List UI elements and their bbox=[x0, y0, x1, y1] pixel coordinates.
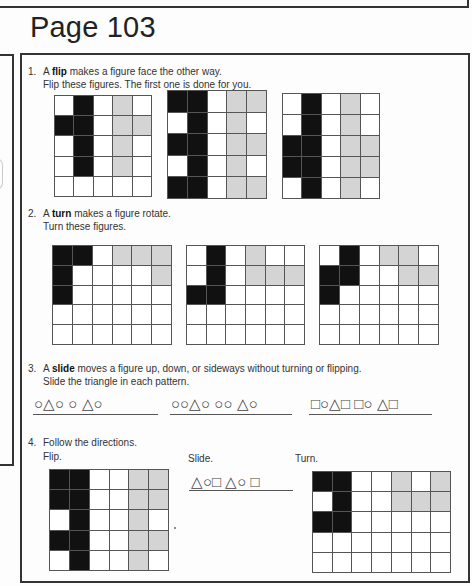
slide-pattern-1[interactable]: ○△○ ○ △○ bbox=[34, 395, 103, 413]
grid-cell[interactable] bbox=[187, 325, 206, 344]
turn-practice-grid[interactable] bbox=[312, 471, 451, 573]
grid-cell[interactable] bbox=[266, 266, 285, 285]
grid-cell[interactable] bbox=[412, 512, 431, 531]
grid-cell[interactable] bbox=[110, 490, 129, 509]
grid-cell[interactable] bbox=[320, 266, 339, 285]
grid-cell[interactable] bbox=[320, 325, 339, 344]
grid-cell[interactable] bbox=[55, 177, 73, 196]
grid-cell[interactable] bbox=[113, 136, 131, 155]
grid-cell[interactable] bbox=[227, 134, 246, 155]
grid-cell[interactable] bbox=[187, 266, 206, 285]
grid-cell[interactable] bbox=[188, 91, 207, 112]
grid-cell[interactable] bbox=[133, 177, 151, 196]
grid-cell[interactable] bbox=[285, 266, 304, 285]
grid-cell[interactable] bbox=[283, 115, 301, 135]
grid-cell[interactable] bbox=[74, 177, 92, 196]
grid-cell[interactable] bbox=[208, 156, 227, 177]
grid-cell[interactable] bbox=[302, 178, 320, 198]
grid-cell[interactable] bbox=[90, 490, 109, 509]
slide-pattern-3[interactable]: □○△□ □○ △□ bbox=[311, 395, 398, 413]
grid-cell[interactable] bbox=[372, 472, 391, 491]
grid-cell[interactable] bbox=[313, 533, 332, 552]
grid-cell[interactable] bbox=[226, 266, 245, 285]
grid-cell[interactable] bbox=[320, 305, 339, 324]
grid-cell[interactable] bbox=[53, 246, 72, 265]
grid-cell[interactable] bbox=[149, 531, 168, 550]
grid-cell[interactable] bbox=[360, 325, 379, 344]
grid-cell[interactable] bbox=[419, 266, 438, 285]
grid-cell[interactable] bbox=[208, 134, 227, 155]
grid-cell[interactable] bbox=[340, 305, 359, 324]
grid-cell[interactable] bbox=[360, 266, 379, 285]
grid-cell[interactable] bbox=[168, 177, 187, 198]
grid-cell[interactable] bbox=[227, 156, 246, 177]
grid-cell[interactable] bbox=[333, 512, 352, 531]
grid-cell[interactable] bbox=[227, 91, 246, 112]
grid-cell[interactable] bbox=[302, 136, 320, 156]
grid-cell[interactable] bbox=[110, 551, 129, 570]
grid-cell[interactable] bbox=[94, 177, 112, 196]
grid-cell[interactable] bbox=[50, 510, 69, 529]
grid-cell[interactable] bbox=[333, 492, 352, 511]
grid-cell[interactable] bbox=[283, 136, 301, 156]
grid-cell[interactable] bbox=[333, 533, 352, 552]
grid-cell[interactable] bbox=[419, 325, 438, 344]
grid-cell[interactable] bbox=[113, 177, 131, 196]
grid-cell[interactable] bbox=[55, 116, 73, 135]
grid-cell[interactable] bbox=[129, 510, 148, 529]
grid-cell[interactable] bbox=[110, 470, 129, 489]
grid-cell[interactable] bbox=[93, 266, 112, 285]
grid-cell[interactable] bbox=[392, 512, 411, 531]
grid-cell[interactable] bbox=[380, 305, 399, 324]
grid-cell[interactable] bbox=[226, 246, 245, 265]
grid-cell[interactable] bbox=[50, 470, 69, 489]
grid-cell[interactable] bbox=[302, 157, 320, 177]
grid-cell[interactable] bbox=[93, 325, 112, 344]
slide-pattern-2[interactable]: ○○△○ ○○ △○ bbox=[171, 395, 258, 413]
grid-cell[interactable] bbox=[113, 116, 131, 135]
grid-cell[interactable] bbox=[74, 136, 92, 155]
grid-cell[interactable] bbox=[285, 325, 304, 344]
grid-cell[interactable] bbox=[399, 286, 418, 305]
grid-cell[interactable] bbox=[93, 305, 112, 324]
grid-cell[interactable] bbox=[70, 490, 89, 509]
grid-cell[interactable] bbox=[152, 325, 171, 344]
grid-cell[interactable] bbox=[419, 305, 438, 324]
grid-cell[interactable] bbox=[226, 305, 245, 324]
grid-cell[interactable] bbox=[90, 510, 109, 529]
grid-cell[interactable] bbox=[340, 266, 359, 285]
grid-cell[interactable] bbox=[70, 510, 89, 529]
grid-cell[interactable] bbox=[266, 246, 285, 265]
grid-cell[interactable] bbox=[352, 492, 371, 511]
grid-cell[interactable] bbox=[149, 551, 168, 570]
grid-cell[interactable] bbox=[90, 531, 109, 550]
grid-cell[interactable] bbox=[187, 305, 206, 324]
grid-cell[interactable] bbox=[352, 553, 371, 572]
grid-cell[interactable] bbox=[360, 305, 379, 324]
grid-cell[interactable] bbox=[361, 115, 379, 135]
grid-cell[interactable] bbox=[227, 113, 246, 134]
grid-cell[interactable] bbox=[50, 490, 69, 509]
grid-cell[interactable] bbox=[73, 246, 92, 265]
grid-cell[interactable] bbox=[266, 286, 285, 305]
grid-cell[interactable] bbox=[133, 116, 151, 135]
grid-cell[interactable] bbox=[320, 246, 339, 265]
grid-cell[interactable] bbox=[113, 305, 132, 324]
grid-cell[interactable] bbox=[207, 325, 226, 344]
grid-cell[interactable] bbox=[110, 510, 129, 529]
grid-cell[interactable] bbox=[133, 136, 151, 155]
grid-cell[interactable] bbox=[341, 94, 359, 114]
grid-cell[interactable] bbox=[113, 157, 131, 176]
turn-grid-1[interactable] bbox=[52, 245, 172, 345]
grid-cell[interactable] bbox=[361, 136, 379, 156]
grid-cell[interactable] bbox=[361, 157, 379, 177]
grid-cell[interactable] bbox=[352, 533, 371, 552]
grid-cell[interactable] bbox=[70, 470, 89, 489]
flip-grid-1[interactable] bbox=[167, 90, 267, 199]
grid-cell[interactable] bbox=[341, 115, 359, 135]
grid-cell[interactable] bbox=[74, 96, 92, 115]
grid-cell[interactable] bbox=[168, 113, 187, 134]
grid-cell[interactable] bbox=[208, 177, 227, 198]
grid-cell[interactable] bbox=[74, 157, 92, 176]
turn-grid-2[interactable] bbox=[186, 245, 305, 345]
